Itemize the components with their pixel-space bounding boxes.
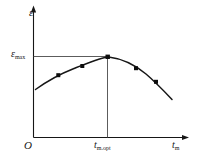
y-tick-label-epsilon-max: εmax (11, 49, 25, 59)
fitted-curve (36, 57, 173, 100)
origin-label: O (24, 140, 32, 151)
data-point-marker (134, 66, 138, 70)
data-point-marker (154, 80, 158, 84)
data-point-marker (56, 73, 60, 77)
x-axis-label: tm (172, 140, 179, 150)
data-point-marker (106, 55, 110, 59)
x-axis-label-subscript: m (175, 145, 180, 151)
x-axis-arrow-icon (182, 135, 189, 140)
x-tick-label-subscript: m.opt (97, 145, 111, 151)
x-axis (34, 135, 190, 140)
x-tick-label-tm-opt: tm.opt (94, 140, 111, 150)
y-tick-label-subscript: max (15, 54, 25, 60)
data-point-marker (80, 64, 84, 68)
y-axis-label: ε (29, 7, 33, 18)
chart-figure: ε εmax O tm.opt tm (0, 0, 198, 167)
y-axis (31, 6, 36, 138)
